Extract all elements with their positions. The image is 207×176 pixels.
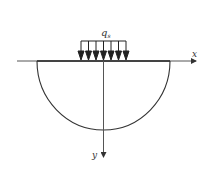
y-axis-label: y xyxy=(91,150,98,160)
distributed-load xyxy=(78,41,129,60)
load-label: qs xyxy=(101,27,111,39)
semicircle-load-diagram: qs x y xyxy=(0,0,207,176)
x-axis-label: x xyxy=(192,49,197,59)
